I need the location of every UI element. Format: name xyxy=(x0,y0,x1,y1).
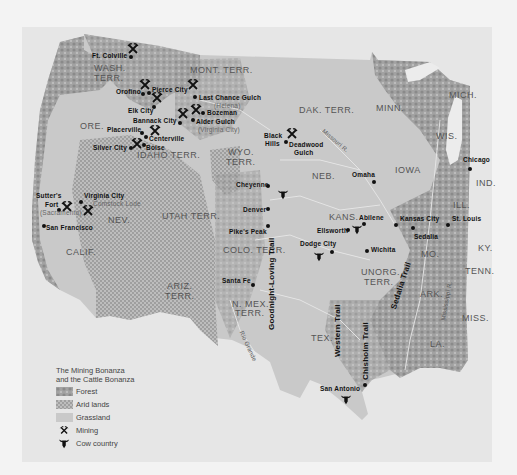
place-dot xyxy=(144,135,148,139)
place-kansas-city: Kansas City xyxy=(400,216,439,223)
place-deadwood-gulch: Deadwood xyxy=(289,142,323,149)
label-n-mex-terr-2: TERR. xyxy=(235,309,265,318)
mining-icon xyxy=(177,108,189,120)
place-placerville: Placerville xyxy=(107,127,141,134)
place-pierce-city: Pierce City xyxy=(152,87,188,94)
pick-and-shovel-icon xyxy=(56,426,73,435)
label-neb: NEB. xyxy=(312,172,335,181)
place-pikes-peak: Pike's Peak xyxy=(229,229,267,236)
place-ft-colville: Ft. Colville xyxy=(92,53,127,60)
legend-item-cow-country: Cow country xyxy=(56,437,176,449)
label-wyo-terr: WYO. xyxy=(228,148,254,157)
place-black-hills-2: Hills xyxy=(265,141,280,148)
place-abilene: Abilene xyxy=(359,215,384,222)
place-sedalia: Sedalia xyxy=(414,234,438,241)
place-dot xyxy=(79,200,83,204)
legend-title-line2: and the Cattle Bonanza xyxy=(56,375,176,384)
legend-item-forest: Forest xyxy=(56,385,176,397)
label-idaho-terr: IDAHO TERR. xyxy=(137,151,200,160)
place-dot xyxy=(330,250,334,254)
mining-icon xyxy=(190,104,202,116)
label-tex: TEX. xyxy=(311,334,333,343)
label-mont-terr: MONT. TERR. xyxy=(190,66,253,75)
label-kans: KANS. xyxy=(329,213,359,222)
legend-title-line1: The Mining Bonanza xyxy=(56,366,176,375)
place-sacramento: (Sacramento) xyxy=(40,210,82,217)
label-ill: ILL. xyxy=(453,201,470,210)
label-dak-terr: DAK. TERR. xyxy=(299,106,354,115)
place-santa-fe: Santa Fe xyxy=(222,278,251,285)
label-miss: MISS. xyxy=(462,314,489,323)
label-wyo-terr-2: TERR. xyxy=(226,158,256,167)
arid-swatch-icon xyxy=(56,400,73,409)
place-ellsworth: Ellsworth xyxy=(317,228,348,235)
label-colo-terr: COLO. TERR. xyxy=(223,246,286,255)
trail-chisholm: Chisholm Trail xyxy=(362,322,370,380)
place-san-francisco: San Francisco xyxy=(46,225,93,232)
place-virginia-city-mt: (Virginia City) xyxy=(198,127,240,134)
label-unorg-terr: UNORG. xyxy=(361,268,400,277)
label-ore: ORE. xyxy=(80,122,104,131)
place-dot xyxy=(178,121,182,125)
label-la: LA. xyxy=(430,340,445,349)
place-alder-gulch: Alder Gulch xyxy=(196,119,235,126)
place-dot xyxy=(372,180,376,184)
label-mich: MICH. xyxy=(449,91,477,100)
place-boise: Boise xyxy=(146,145,165,152)
cow-country-icon xyxy=(277,188,289,200)
label-unorg-terr-2: TERR. xyxy=(364,278,394,287)
place-dot xyxy=(191,118,195,122)
place-deadwood-gulch-2: Gulch xyxy=(294,150,313,157)
place-orofino: Orofino xyxy=(116,89,141,96)
place-dot xyxy=(468,167,472,171)
label-mo: MO. xyxy=(421,250,440,259)
place-dot xyxy=(201,111,205,115)
place-dot xyxy=(141,92,145,96)
forest-swatch-icon xyxy=(56,387,73,396)
place-comstock-lode: Comstock Lode xyxy=(93,201,141,208)
trail-western: Western Trail xyxy=(334,304,342,357)
place-bozeman: Bozeman xyxy=(207,110,237,117)
legend-item-arid: Arid lands xyxy=(56,398,176,410)
mining-icon xyxy=(127,43,139,55)
place-dot xyxy=(193,95,197,99)
label-ariz-terr-2: TERR. xyxy=(165,292,195,301)
place-chicago: Chicago xyxy=(463,157,490,164)
map-legend: The Mining Bonanza and the Cattle Bonanz… xyxy=(56,366,176,449)
place-st-louis: St. Louis xyxy=(452,216,481,223)
label-nev: NEV. xyxy=(108,216,130,225)
legend-item-mining: Mining xyxy=(56,424,176,436)
label-ind: IND. xyxy=(476,179,496,188)
place-dodge-city: Dodge City xyxy=(300,241,336,248)
mining-icon xyxy=(286,128,298,140)
grassland-swatch-icon xyxy=(56,413,73,422)
label-wash-terr-2: TERR. xyxy=(94,74,124,83)
place-dot xyxy=(394,223,398,227)
place-silver-city: Silver City xyxy=(93,145,127,152)
label-tenn: TENN. xyxy=(465,267,495,276)
place-wichita: Wichita xyxy=(371,247,395,254)
cow-country-icon xyxy=(340,393,352,405)
place-sutters-fort: Sutter's xyxy=(36,193,62,200)
mining-icon xyxy=(187,79,199,91)
place-virginia-city-nv: Virginia City xyxy=(84,193,124,200)
label-wis: WIS. xyxy=(436,132,458,141)
cow-country-icon xyxy=(313,250,325,262)
label-ark: ARK. xyxy=(420,290,443,299)
steer-head-icon xyxy=(56,437,73,449)
label-ariz-terr: ARIZ. xyxy=(167,282,193,291)
place-last-chance-gulch: Last Chance Gulch xyxy=(199,95,261,102)
place-dot xyxy=(365,249,369,253)
place-dot xyxy=(147,91,151,95)
place-cheyenne: Cheyenne xyxy=(236,182,269,189)
place-denver: Denver xyxy=(243,207,266,214)
place-centerville: Centerville xyxy=(149,136,184,143)
place-omaha: Omaha xyxy=(352,172,375,179)
place-dot xyxy=(363,383,367,387)
place-dot xyxy=(411,226,415,230)
label-wash-terr: WASH. xyxy=(94,64,126,73)
place-dot xyxy=(251,283,255,287)
place-dot xyxy=(284,140,288,144)
place-san-antonio: San Antonio xyxy=(320,386,360,393)
place-dot xyxy=(446,223,450,227)
